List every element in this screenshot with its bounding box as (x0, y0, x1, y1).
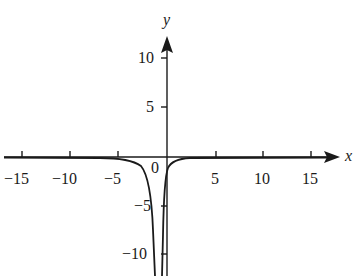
chart-canvas (0, 0, 356, 276)
x-tick-label: 15 (302, 171, 318, 187)
y-tick-label: −10 (122, 246, 147, 262)
x-tick-label: −15 (4, 171, 29, 187)
x-tick-label: −5 (104, 171, 121, 187)
y-axis-label: y (163, 12, 170, 28)
y-tick-label: 10 (138, 50, 154, 66)
y-tick-label: −5 (134, 198, 151, 214)
y-tick-label: 5 (146, 99, 154, 115)
y-axis (161, 44, 167, 276)
x-tick-label: 10 (254, 171, 270, 187)
x-axis-label: x (345, 148, 352, 164)
x-tick-label: 5 (211, 171, 219, 187)
origin-label: 0 (151, 160, 159, 176)
x-tick-label: −10 (52, 171, 77, 187)
